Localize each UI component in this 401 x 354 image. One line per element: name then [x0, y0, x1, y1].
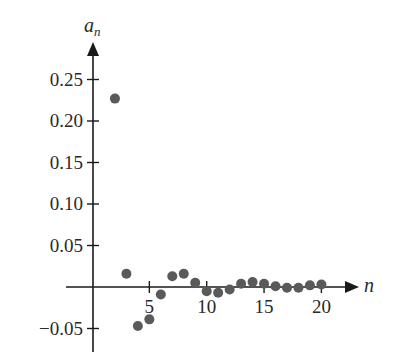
data-point	[110, 94, 120, 104]
scatter-chart: 0.250.200.150.100.05−0.05 5101520 an n	[0, 0, 401, 354]
data-point	[179, 269, 189, 279]
data-point	[202, 286, 212, 296]
data-point	[213, 288, 223, 298]
y-tick-label: 0.05	[50, 235, 83, 256]
x-tick-label: 10	[197, 296, 216, 317]
y-tick-label: 0.15	[50, 152, 83, 173]
data-point	[156, 289, 166, 299]
data-point	[248, 277, 258, 287]
data-point	[271, 281, 281, 291]
data-point	[259, 279, 269, 289]
data-point	[190, 278, 200, 288]
data-point	[293, 283, 303, 293]
data-point	[121, 269, 131, 279]
x-axis-arrow-icon	[345, 281, 359, 293]
y-tick-label: 0.10	[50, 193, 83, 214]
x-axis-label: n	[364, 274, 374, 296]
data-points	[110, 94, 326, 331]
data-point	[282, 283, 292, 293]
data-point	[167, 271, 177, 281]
data-point	[236, 279, 246, 289]
y-axis-arrow-icon	[87, 42, 99, 56]
data-point	[144, 314, 154, 324]
y-axis-label: an	[84, 14, 101, 39]
y-axis-ticks: 0.250.200.150.100.05−0.05	[39, 69, 99, 339]
x-tick-label: 15	[255, 296, 274, 317]
x-tick-label: 5	[145, 296, 155, 317]
data-point	[225, 284, 235, 294]
data-point	[316, 280, 326, 290]
y-tick-label: 0.20	[50, 110, 83, 131]
data-point	[305, 280, 315, 290]
y-tick-label: 0.25	[50, 69, 83, 90]
y-tick-label: −0.05	[39, 318, 83, 339]
x-tick-label: 20	[312, 296, 331, 317]
data-point	[133, 321, 143, 331]
